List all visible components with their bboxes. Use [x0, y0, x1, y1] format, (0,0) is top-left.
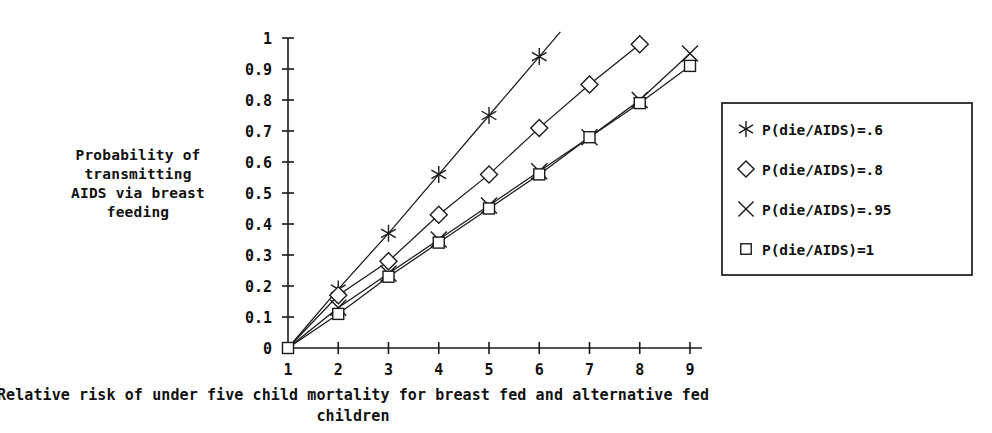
x-tick-label: 5	[484, 361, 493, 379]
y-tick-label: 0.1	[245, 309, 272, 327]
y-axis-title-line: transmitting	[84, 166, 191, 182]
x-axis-caption-line: Relative risk of under five child mortal…	[0, 386, 709, 404]
x-tick-label: 8	[635, 361, 644, 379]
y-tick-label: 1	[263, 30, 272, 48]
marker-square	[685, 60, 696, 71]
y-tick-label: 0	[263, 340, 272, 358]
y-tick-label: 0.9	[245, 61, 272, 79]
y-tick-label: 0.5	[245, 185, 272, 203]
x-axis-caption-line: children	[316, 407, 389, 425]
y-axis-title-line: feeding	[107, 204, 170, 220]
y-tick-label: 0.3	[245, 247, 272, 265]
marker-square	[283, 343, 294, 354]
y-tick-label: 0.8	[245, 92, 272, 110]
legend-item-label: P(die/AIDS)=.6	[762, 122, 883, 138]
marker-square	[433, 237, 444, 248]
marker-square	[484, 203, 495, 214]
x-tick-label: 7	[585, 361, 594, 379]
x-tick-label: 3	[384, 361, 393, 379]
x-tick-label: 2	[334, 361, 343, 379]
y-tick-label: 0.2	[245, 278, 272, 296]
x-tick-label: 6	[535, 361, 544, 379]
x-tick-label: 9	[685, 361, 694, 379]
y-axis-title-line: Probability of	[75, 147, 200, 163]
marker-square	[634, 98, 645, 109]
chart-figure: Probability oftransmittingAIDS via breas…	[0, 0, 992, 433]
legend-item-label: P(die/AIDS)=1	[762, 242, 875, 258]
legend-item-label: P(die/AIDS)=.95	[762, 202, 891, 218]
marker-square	[741, 244, 751, 254]
x-tick-label: 1	[283, 361, 292, 379]
legend-item-label: P(die/AIDS)=.8	[762, 162, 883, 178]
marker-square	[534, 169, 545, 180]
x-tick-label: 4	[434, 361, 443, 379]
y-tick-label: 0.4	[245, 216, 272, 234]
y-tick-label: 0.6	[245, 154, 272, 172]
y-axis-title-line: AIDS via breast	[71, 185, 205, 201]
y-tick-label: 0.7	[245, 123, 272, 141]
legend-item-2[interactable]: P(die/AIDS)=.95	[738, 201, 891, 217]
marker-square	[333, 308, 344, 319]
marker-square	[584, 132, 595, 143]
marker-square	[383, 271, 394, 282]
legend: P(die/AIDS)=.6P(die/AIDS)=.8P(die/AIDS)=…	[722, 103, 972, 275]
